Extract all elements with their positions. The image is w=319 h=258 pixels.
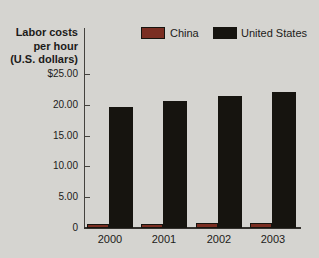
y-axis-tick-label: 5.00 [0, 192, 78, 202]
bar-united-states-2000 [109, 107, 133, 228]
y-axis-tick [85, 166, 90, 167]
plot-area: $25.0020.0015.0010.005.00020002001200220… [0, 0, 319, 258]
chart-canvas: Labor costs per hour (U.S. dollars) Chin… [0, 0, 319, 258]
y-axis-line [84, 28, 85, 228]
x-axis-label-2000: 2000 [87, 233, 133, 245]
y-axis-tick-label: $25.00 [0, 69, 78, 79]
bar-china-2002 [196, 223, 218, 228]
y-axis-tick-label: 20.00 [0, 100, 78, 110]
y-axis-tick-label: 15.00 [0, 131, 78, 141]
x-axis-label-2001: 2001 [141, 233, 187, 245]
bar-china-2001 [141, 224, 163, 228]
bar-united-states-2003 [272, 92, 296, 228]
y-axis-tick [85, 105, 90, 106]
x-axis-label-2002: 2002 [196, 233, 242, 245]
y-axis-tick [85, 74, 90, 75]
y-axis-tick-label: 0 [0, 223, 78, 233]
bar-china-2000 [87, 224, 109, 228]
y-axis-tick [85, 197, 90, 198]
bar-china-2003 [250, 223, 272, 228]
bar-united-states-2002 [218, 96, 242, 228]
y-axis-tick [85, 136, 90, 137]
y-axis-tick-label: 10.00 [0, 161, 78, 171]
x-axis-label-2003: 2003 [250, 233, 296, 245]
bar-united-states-2001 [163, 101, 187, 228]
